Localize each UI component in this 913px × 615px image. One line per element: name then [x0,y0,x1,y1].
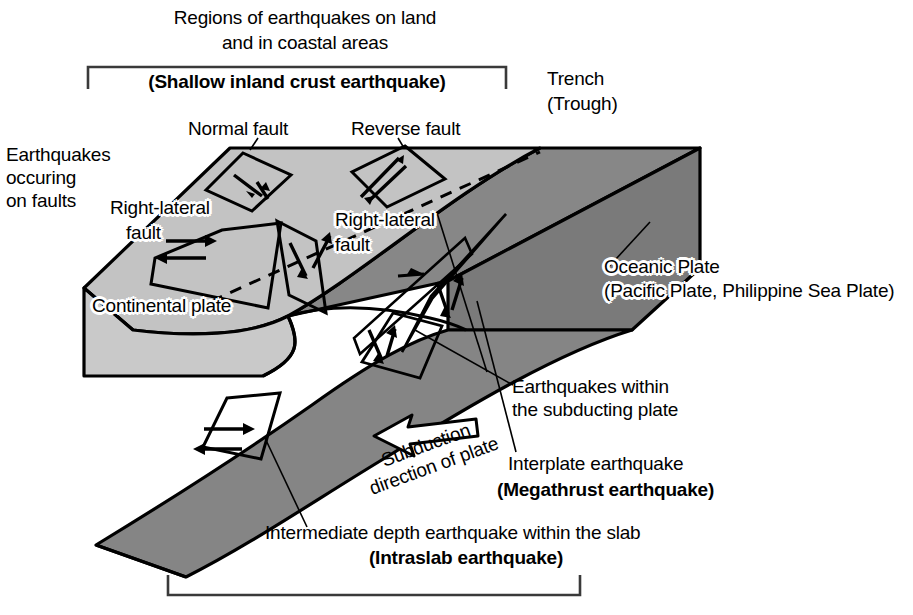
top-heading-line2: and in coastal areas [140,31,470,54]
continental-plate-label: Continental plate [92,294,231,317]
earthquakes-within-subducting-plate-line1: Earthquakes within [512,375,669,398]
earthquakes-within-subducting-plate-line2: the subducting plate [512,398,678,421]
earthquakes-on-faults-line3: on faults [6,189,76,212]
shallow-inland-crust-earthquake-label: (Shallow inland crust earthquake) [110,70,484,93]
right-lateral-fault-right-line1: Right-lateral [335,208,435,231]
trench-label-line2: (Trough) [547,92,618,115]
megathrust-earthquake-label: (Megathrust earthquake) [497,478,714,501]
oceanic-plate-label-line2: (Pacific Plate, Philippine Sea Plate) [604,279,894,302]
intraslab-earthquake-label-line1: Intermediate depth earthquake within the… [265,521,640,544]
normal-fault-label: Normal fault [188,117,288,140]
earthquakes-on-faults-line2: occuring [6,166,76,189]
reverse-fault-label: Reverse fault [351,117,460,140]
oceanic-plate-label-line1: Oceanic Plate [604,255,720,278]
right-lateral-fault-right-line2: fault [335,233,370,256]
earthquakes-on-faults-line1: Earthquakes [6,143,110,166]
intraslab-earthquake-label-line2: (Intraslab earthquake) [265,546,667,569]
bracket-subduction-zone [168,575,580,595]
top-heading-line1: Regions of earthquakes on land [140,6,470,29]
interplate-earthquake-label: Interplate earthquake [508,452,683,475]
right-lateral-fault-left-line1: Right-lateral [110,196,210,219]
diagram-canvas: Regions of earthquakes on land and in co… [0,0,913,615]
trench-label-line1: Trench [547,67,604,90]
right-lateral-fault-left-line2: fault [126,221,161,244]
